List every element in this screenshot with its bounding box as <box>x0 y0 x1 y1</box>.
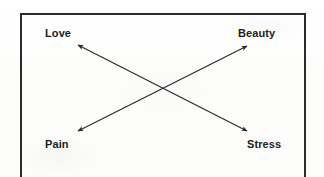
node-label-pain: Pain <box>45 139 69 150</box>
node-label-beauty: Beauty <box>238 28 275 39</box>
figure-root: Love Beauty Pain Stress <box>0 0 324 177</box>
node-label-stress: Stress <box>247 139 281 150</box>
node-label-love: Love <box>45 28 71 39</box>
